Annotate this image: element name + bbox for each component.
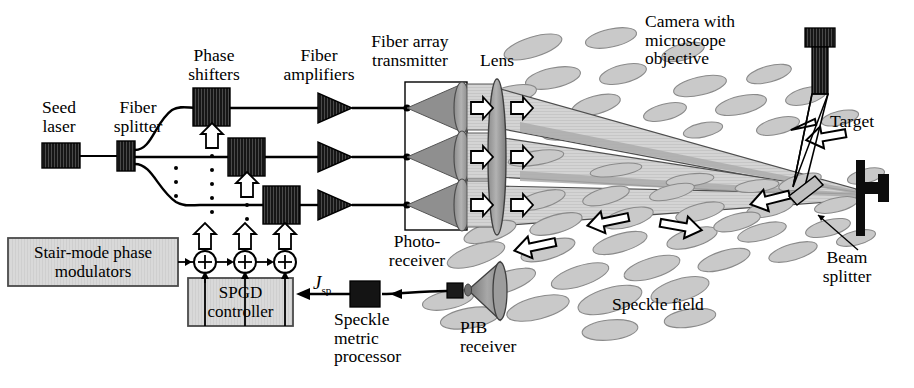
figure-canvas: Seed laser Fiber splitter Phase shifters… [0, 0, 914, 388]
seed-laser-block [42, 143, 80, 168]
photo-receiver-block [447, 283, 463, 298]
lens-label: Lens [466, 51, 528, 70]
fiber-splitter-block [117, 141, 135, 171]
phase-shifter-3 [263, 186, 300, 224]
fiber-array-transmitter-label: Fiber array transmitter [352, 32, 468, 69]
speckle-metric-processor-label: Speckle metric processor [334, 310, 401, 366]
speckle-field-label: Speckle field [612, 295, 704, 314]
pib-receiver-label: PIB receiver [460, 318, 516, 355]
microscope-objective [812, 47, 828, 94]
speckle-metric-processor-block [350, 281, 380, 307]
fiber-amplifier-1 [318, 93, 352, 123]
jsp-subscript: sp [321, 284, 331, 296]
pib-aperture [493, 262, 507, 320]
beam-splitter-label: Beam splitter [805, 248, 889, 285]
spgd-controller-label: SPGD controller [188, 278, 293, 326]
phase-shifter-2 [228, 138, 265, 176]
phase-shifter-1 [193, 88, 230, 126]
phase-shifters-label: Phase shifters [166, 46, 262, 83]
fiber-amplifier-3 [318, 190, 352, 220]
target-label: Target [830, 112, 874, 131]
camera-body [805, 28, 835, 47]
fiber-amplifier-2 [318, 142, 352, 172]
stair-mode-phase-modulators-label: Stair-mode phase modulators [8, 238, 178, 286]
camera-label: Camera with microscope objective [645, 12, 805, 68]
fiber-splitter-label: Fiber splitter [86, 98, 190, 135]
photo-receiver-label: Photo- receiver [368, 232, 466, 269]
jsp-label: Jsp [313, 272, 331, 296]
